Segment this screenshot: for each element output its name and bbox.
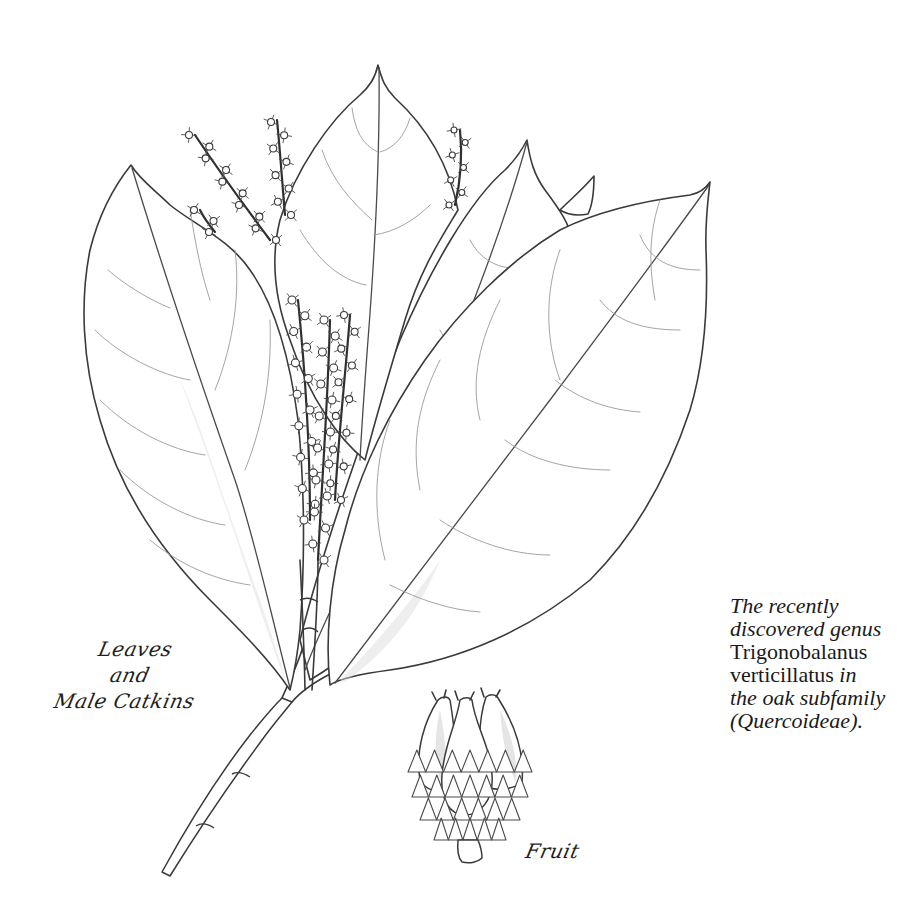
cupule-scale: [492, 818, 506, 840]
cupule-scale: [487, 798, 504, 820]
cupule-scale: [434, 818, 448, 840]
label-line-and: and: [37, 662, 223, 688]
catkin-flower: [188, 204, 201, 217]
caption-line-5: the oak subfamily: [730, 686, 905, 709]
cupule-scale: [448, 818, 462, 840]
leaves-and-catkins-label: Leaves and Male Catkins: [32, 636, 229, 714]
botanical-illustration: [0, 0, 905, 913]
cupule-scale: [477, 818, 491, 840]
catkin-flower: [270, 169, 281, 180]
fruit-label: Fruit: [523, 838, 619, 864]
caption-line-4: verticillatus in: [730, 663, 905, 686]
caption-line-1: The recently: [730, 594, 905, 617]
catkin-flower: [317, 346, 329, 358]
caption-in: in: [834, 662, 857, 687]
catkin-flower: [182, 128, 197, 143]
cupule-scale: [463, 818, 477, 840]
catkin-flower: [447, 123, 461, 137]
caption-line-2: discovered genus: [730, 617, 905, 640]
cupule-scale: [420, 798, 437, 820]
caption-species: verticillatus: [730, 662, 834, 687]
caption-subfamily: (Quercoideae).: [730, 709, 905, 732]
leaf-back-small: [560, 176, 594, 215]
catkin-flower: [254, 211, 265, 222]
label-line-male-catkins: Male Catkins: [32, 688, 218, 714]
catkin-flower: [267, 142, 279, 154]
figure-caption: The recently discovered genus Trigonobal…: [730, 594, 905, 732]
label-line-leaves: Leaves: [43, 636, 229, 662]
caption-genus: Trigonobalanus: [730, 640, 905, 663]
catkin-flower: [301, 341, 313, 353]
cupule-scale: [503, 798, 520, 820]
catkin-flower: [446, 148, 459, 161]
catkin-flower: [458, 162, 468, 172]
fruit-cluster: [408, 688, 532, 863]
catkin-flower: [285, 209, 296, 220]
catkin-flower: [264, 115, 278, 129]
